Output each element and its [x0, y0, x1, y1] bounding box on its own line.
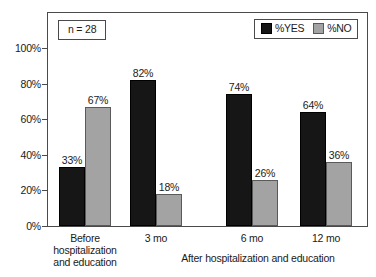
bar-no[interactable]: [85, 107, 111, 226]
bar-value-label: 26%: [245, 168, 285, 179]
bar-no[interactable]: [252, 180, 278, 226]
y-axis: 0%20%40%60%80%100%: [0, 12, 41, 228]
legend-label-no: %NO: [327, 23, 351, 34]
bar-no[interactable]: [326, 162, 352, 226]
bar-value-label: 74%: [219, 82, 259, 93]
x-category-label: 3 mo: [106, 232, 206, 244]
y-tick-label: 40%: [0, 150, 41, 160]
bar-yes[interactable]: [130, 80, 156, 226]
legend-swatch-no-icon: [313, 23, 324, 34]
bar-no[interactable]: [156, 194, 182, 226]
bars-layer: 33%67%82%18%74%26%64%36%: [48, 13, 367, 226]
bar-value-label: 64%: [293, 100, 333, 111]
y-tick-mark: [42, 226, 47, 227]
bar-value-label: 67%: [78, 95, 118, 106]
legend-swatch-yes-icon: [261, 23, 272, 34]
y-tick-mark: [42, 84, 47, 85]
bar-value-label: 18%: [149, 182, 189, 193]
chart-legend: %YES %NO: [254, 19, 358, 39]
y-tick-mark: [42, 119, 47, 120]
y-tick-label: 100%: [0, 43, 41, 53]
y-tick-mark: [42, 190, 47, 191]
y-tick-label: 60%: [0, 114, 41, 124]
y-tick-label: 0%: [0, 221, 41, 231]
x-category-label: 12 mo: [276, 232, 376, 244]
bar-value-label: 36%: [319, 150, 359, 161]
legend-item-yes[interactable]: %YES: [261, 23, 304, 34]
y-tick-label: 20%: [0, 185, 41, 195]
legend-label-yes: %YES: [275, 23, 304, 34]
bar-yes[interactable]: [226, 94, 252, 226]
y-tick-mark: [42, 48, 47, 49]
sample-size-annotation: n = 28: [58, 20, 106, 40]
bar-chart: 0%20%40%60%80%100% 33%67%82%18%74%26%64%…: [0, 0, 376, 277]
bar-yes[interactable]: [300, 112, 326, 226]
y-tick-mark: [42, 155, 47, 156]
bar-yes[interactable]: [59, 167, 85, 226]
bar-value-label: 82%: [123, 68, 163, 79]
x-axis-title: After hospitalization and education: [140, 252, 376, 264]
legend-item-no[interactable]: %NO: [313, 23, 351, 34]
y-tick-label: 80%: [0, 79, 41, 89]
